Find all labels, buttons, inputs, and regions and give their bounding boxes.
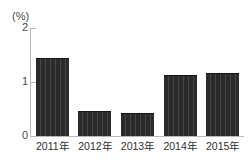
bar [78, 111, 111, 136]
y-tick-label: 1 [8, 76, 28, 87]
x-axis-category-label: 2011年 [31, 141, 74, 153]
x-axis-category-label: 2014年 [159, 141, 202, 153]
y-tick-label: 0 [8, 130, 28, 141]
bar [164, 75, 197, 136]
x-axis-category-label: 2012年 [74, 141, 117, 153]
x-axis-baseline [30, 136, 244, 137]
x-axis-category-label: 2013年 [116, 141, 159, 153]
y-tick-label: 2 [8, 22, 28, 33]
bar-chart: (%) 012 2011年2012年2013年2014年2015年 [0, 0, 252, 166]
bar [206, 73, 239, 136]
y-tick-mark [31, 136, 36, 137]
bar [121, 113, 154, 136]
plot-area [31, 28, 244, 136]
x-axis-category-label: 2015年 [201, 141, 244, 153]
bar [36, 58, 69, 136]
